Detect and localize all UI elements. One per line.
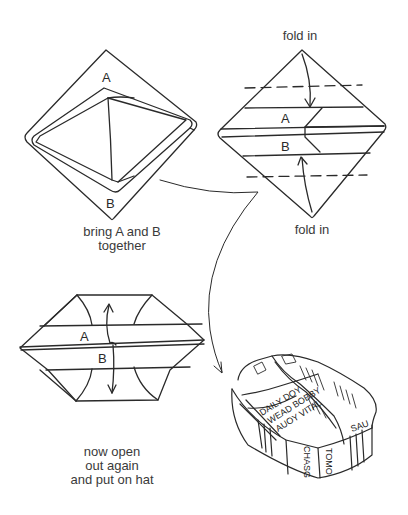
step-1-diagram (25, 50, 197, 220)
step-3-diagram (20, 295, 204, 401)
connector-arrow (160, 180, 258, 372)
step-1-label-a: A (102, 70, 111, 85)
step-1-caption-line-2: together (60, 239, 184, 253)
step-3-caption-line-2: out again (52, 459, 172, 473)
hat-text-6: SAU (349, 418, 370, 434)
step-2-label-b: B (281, 139, 290, 154)
step-3-caption: now open out again and put on hat (52, 445, 172, 487)
step-2-fold-in-top: fold in (270, 29, 330, 43)
step-2-label-a: A (281, 111, 290, 126)
step-3-label-a: A (80, 329, 89, 344)
step-1-caption: bring A and B together (60, 225, 184, 253)
step-1-caption-line-1: bring A and B (60, 225, 184, 239)
step-2-fold-in-bottom: fold in (282, 223, 342, 237)
step-3-caption-line-1: now open (52, 445, 172, 459)
diagram-canvas: A B A B A B DAILY DOY WEAD BOBBY AUOY VI… (0, 0, 408, 515)
step-3-caption-line-3: and put on hat (52, 473, 172, 487)
step-1-label-b: B (106, 196, 115, 211)
hat-text-4: TOMO (324, 448, 334, 475)
hat-text-5: CHASG (302, 446, 312, 478)
step-3-label-b: B (98, 351, 107, 366)
